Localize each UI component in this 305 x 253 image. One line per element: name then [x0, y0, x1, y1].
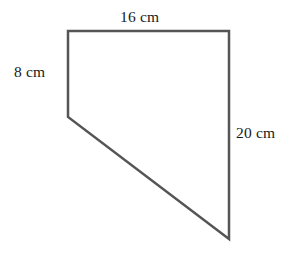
dimension-label-right: 20 cm [236, 125, 275, 141]
dimension-label-top: 16 cm [120, 9, 159, 25]
dimension-label-left: 8 cm [14, 64, 45, 80]
quadrilateral-outline [68, 31, 229, 239]
geometry-figure: 16 cm 8 cm 20 cm [0, 0, 305, 253]
